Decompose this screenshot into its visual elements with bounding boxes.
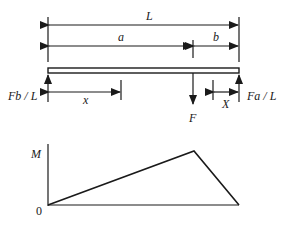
label-left-reaction: Fb / L xyxy=(7,89,38,103)
label-b: b xyxy=(213,30,219,44)
label-a: a xyxy=(118,30,124,44)
label-x: x xyxy=(82,93,89,107)
label-M: M xyxy=(30,147,42,161)
beam xyxy=(48,68,239,73)
label-X: X xyxy=(221,97,230,111)
label-right-reaction: Fa / L xyxy=(246,89,277,103)
extension-lines xyxy=(48,17,239,100)
moment-curve xyxy=(48,151,239,205)
moment-diagram xyxy=(48,144,239,206)
label-L: L xyxy=(145,9,153,23)
label-F: F xyxy=(188,111,197,125)
label-origin: 0 xyxy=(36,204,42,218)
beam-diagram: L a b x X F Fb / L Fa / L M 0 xyxy=(0,0,286,233)
